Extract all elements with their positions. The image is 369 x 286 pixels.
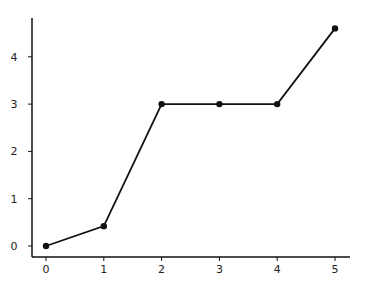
x-tick-label: 1: [100, 263, 107, 276]
axes: [32, 18, 350, 257]
data-point: [43, 243, 49, 249]
data-point: [274, 101, 280, 107]
x-tick-label: 3: [216, 263, 223, 276]
data-point: [101, 223, 107, 229]
x-tick-label: 2: [158, 263, 165, 276]
data-line: [46, 28, 335, 246]
data-point: [158, 101, 164, 107]
x-tick-label: 5: [332, 263, 339, 276]
y-tick-label: 1: [11, 193, 18, 206]
x-tick-label: 4: [274, 263, 281, 276]
data-markers: [43, 25, 338, 249]
data-point: [216, 101, 222, 107]
y-tick-label: 0: [11, 240, 18, 253]
x-tick-label: 0: [43, 263, 50, 276]
y-tick-label: 3: [11, 98, 18, 111]
line-chart: 012345 01234: [0, 0, 369, 286]
y-tick-labels: 01234: [11, 51, 33, 253]
x-tick-labels: 012345: [43, 257, 339, 276]
y-tick-label: 2: [11, 145, 18, 158]
y-tick-label: 4: [11, 51, 18, 64]
data-point: [332, 25, 338, 31]
